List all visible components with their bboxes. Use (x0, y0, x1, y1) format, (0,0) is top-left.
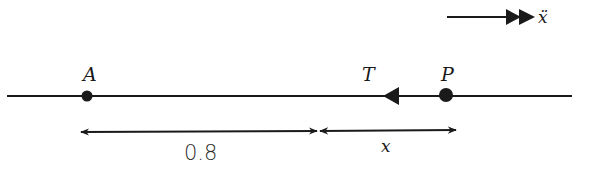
dimension-x: x (320, 130, 456, 156)
point-a-dot (82, 91, 93, 102)
acceleration-indicator: ẍ (447, 7, 548, 27)
point-p: P (439, 63, 455, 102)
acceleration-arrow-head-2 (519, 9, 535, 25)
tension-force: T (362, 63, 399, 105)
dimension-0-8-line (81, 131, 317, 132)
dimension-x-label: x (381, 136, 391, 156)
tension-arrow-head-icon (383, 87, 399, 105)
point-p-dot (439, 88, 453, 102)
diagram-canvas: ẍ A T P 0.8 x (0, 0, 594, 182)
dimension-0-8-label: 0.8 (184, 141, 217, 165)
acceleration-label: ẍ (538, 7, 548, 27)
point-a-label: A (81, 63, 97, 85)
dimension-0-8: 0.8 (81, 131, 317, 165)
acceleration-arrow-head-1 (506, 9, 521, 25)
tension-label: T (362, 63, 376, 85)
dimension-x-line (320, 130, 456, 131)
point-p-label: P (440, 63, 455, 85)
